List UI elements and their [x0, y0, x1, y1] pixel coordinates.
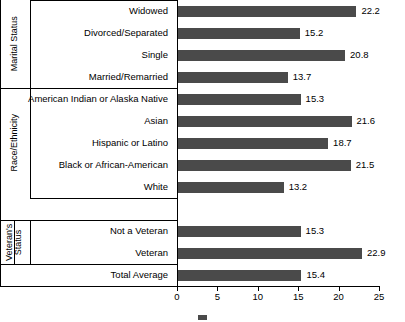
- category-label: White: [144, 176, 172, 198]
- separator-line: [0, 88, 177, 89]
- bar: [177, 248, 362, 259]
- bar: [177, 72, 288, 83]
- bar-value-label: 21.5: [356, 154, 375, 176]
- separator-line: [30, 0, 31, 88]
- category-label: Hispanic or Latino: [92, 132, 172, 154]
- x-axis-line: [177, 286, 380, 287]
- bar-row: Married/Remarried13.7: [0, 66, 405, 88]
- bar-row: Total Average15.4: [0, 264, 405, 286]
- separator-line: [30, 220, 31, 264]
- y-axis-line: [177, 0, 178, 286]
- category-label: Veteran: [135, 242, 172, 264]
- bar-value-label: 15.4: [306, 264, 325, 286]
- bar-value-label: 15.3: [306, 220, 325, 242]
- separator-line: [0, 220, 177, 221]
- bar-value-label: 15.2: [305, 22, 324, 44]
- bar: [177, 270, 301, 281]
- bar: [177, 50, 345, 61]
- category-label: Married/Remarried: [89, 66, 172, 88]
- bar-value-label: 21.6: [357, 110, 376, 132]
- bar-row: Asian21.6: [0, 110, 405, 132]
- bar: [177, 226, 301, 237]
- separator-line: [0, 286, 177, 287]
- bar-row: Widowed22.2: [0, 0, 405, 22]
- bar-row: Divorced/Separated15.2: [0, 22, 405, 44]
- category-label: American Indian or Alaska Native: [28, 88, 172, 110]
- bar-chart: Marital Status Race/Ethnicity Veteran's …: [0, 0, 405, 322]
- bar: [177, 6, 356, 17]
- category-label: Not a Veteran: [110, 220, 172, 242]
- separator-line: [14, 220, 15, 264]
- bar: [177, 138, 328, 149]
- category-label: Black or African-American: [59, 154, 172, 176]
- x-tick-label: 5: [215, 292, 220, 302]
- bar-value-label: 15.3: [306, 88, 325, 110]
- chart-legend: [0, 314, 405, 322]
- bar-row: American Indian or Alaska Native15.3: [0, 88, 405, 110]
- bar-value-label: 22.2: [361, 0, 380, 22]
- separator-line: [30, 0, 177, 1]
- bar-row: Hispanic or Latino18.7: [0, 132, 405, 154]
- x-tick-label: 25: [374, 292, 385, 302]
- separator-line: [0, 0, 1, 286]
- bar: [177, 94, 301, 105]
- x-tick-label: 15: [293, 292, 304, 302]
- separator-line: [30, 198, 177, 199]
- bar-value-label: 20.8: [350, 44, 369, 66]
- bar: [177, 28, 300, 39]
- bar: [177, 160, 351, 171]
- bar-row: Single20.8: [0, 44, 405, 66]
- separator-line: [0, 264, 177, 265]
- x-tick-label: 20: [333, 292, 344, 302]
- bar-row: White13.2: [0, 176, 405, 198]
- bar-value-label: 13.2: [289, 176, 308, 198]
- legend-swatch: [198, 315, 207, 320]
- x-tick-label: 10: [253, 292, 264, 302]
- category-label: Widowed: [129, 0, 172, 22]
- category-label: Divorced/Separated: [84, 22, 172, 44]
- bar-row: Black or African-American21.5: [0, 154, 405, 176]
- bar-value-label: 13.7: [293, 66, 312, 88]
- bar-value-label: 22.9: [367, 242, 386, 264]
- separator-line: [30, 88, 31, 198]
- bar-value-label: 18.7: [333, 132, 352, 154]
- category-label: Total Average: [111, 264, 172, 286]
- category-label: Single: [142, 44, 172, 66]
- category-label: Asian: [144, 110, 172, 132]
- bar: [177, 116, 352, 127]
- bar: [177, 182, 284, 193]
- bar-row: Not a Veteran15.3: [0, 220, 405, 242]
- bar-row: Veteran22.9: [0, 242, 405, 264]
- x-tick-label: 0: [174, 292, 179, 302]
